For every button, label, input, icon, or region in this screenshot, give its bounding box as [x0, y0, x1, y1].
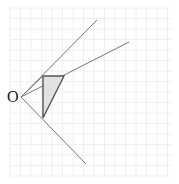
shaded-triangle: [43, 76, 64, 118]
geometry-diagram: O: [0, 0, 179, 184]
origin-label: O: [7, 88, 19, 105]
segment-o-a: [21, 76, 43, 97]
grid: [10, 8, 172, 176]
